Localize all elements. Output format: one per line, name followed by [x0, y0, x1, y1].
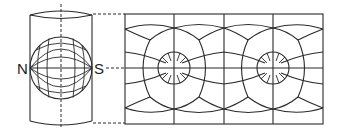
projected-map [125, 14, 323, 124]
south-pole-label: S [94, 61, 104, 76]
diagram-canvas [0, 0, 340, 133]
north-pole-label: N [17, 61, 28, 76]
transverse-cylindrical-projection-diagram: N S [0, 0, 340, 133]
